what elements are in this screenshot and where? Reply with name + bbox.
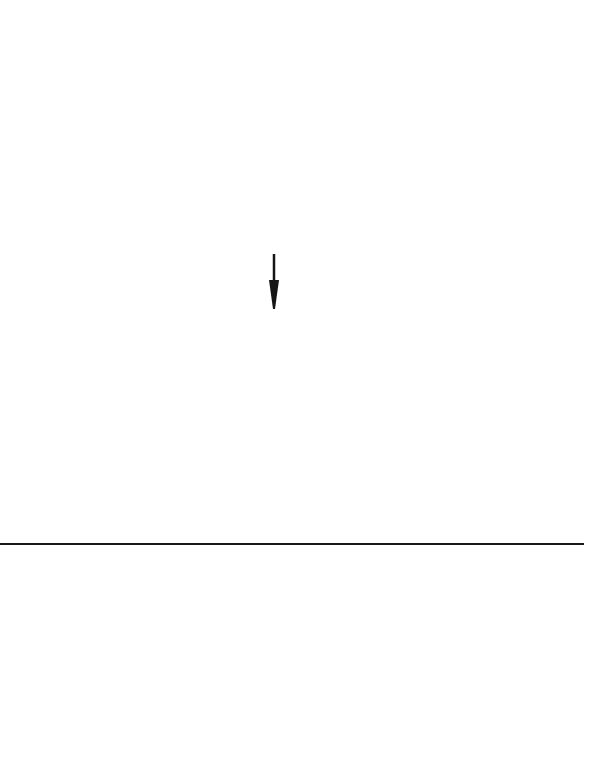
arrow-down-icon [265, 252, 283, 312]
section-divider [0, 543, 584, 545]
